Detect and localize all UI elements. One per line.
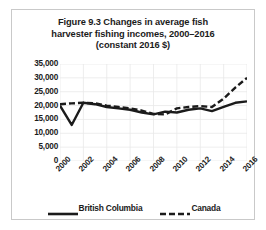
legend-item[interactable]: British Columbia — [48, 203, 143, 213]
legend-line-swatch — [160, 204, 190, 212]
y-axis-tick-label: 5,000 — [14, 142, 58, 151]
y-axis-tick-label: 35,000 — [14, 59, 58, 68]
line-chart-svg — [60, 64, 247, 161]
legend-item-label: British Columbia — [79, 203, 143, 213]
chart-plot-wrapper: 05,00010,00015,00020,00025,00030,00035,0… — [12, 10, 256, 221]
legend-item-label: Canada — [191, 203, 220, 213]
y-axis-tick-label: 30,000 — [14, 73, 58, 82]
vertical-gridlines — [60, 64, 247, 161]
plot-area — [60, 64, 247, 161]
chart-legend: British ColumbiaCanada — [12, 200, 256, 216]
y-axis-tick-label: 0 — [14, 156, 58, 165]
y-axis: 05,00010,00015,00020,00025,00030,00035,0… — [12, 10, 58, 221]
y-axis-tick-label: 25,000 — [14, 87, 58, 96]
y-axis-tick-label: 10,000 — [14, 128, 58, 137]
figure-container: Figure 9.3 Changes in average fish harve… — [11, 9, 255, 220]
legend-item[interactable]: Canada — [160, 203, 220, 213]
legend-line-swatch — [48, 204, 78, 212]
x-axis: 200020022004200620082010201220142016 — [60, 163, 250, 197]
y-axis-tick-label: 20,000 — [14, 101, 58, 110]
y-axis-tick-label: 15,000 — [14, 114, 58, 123]
